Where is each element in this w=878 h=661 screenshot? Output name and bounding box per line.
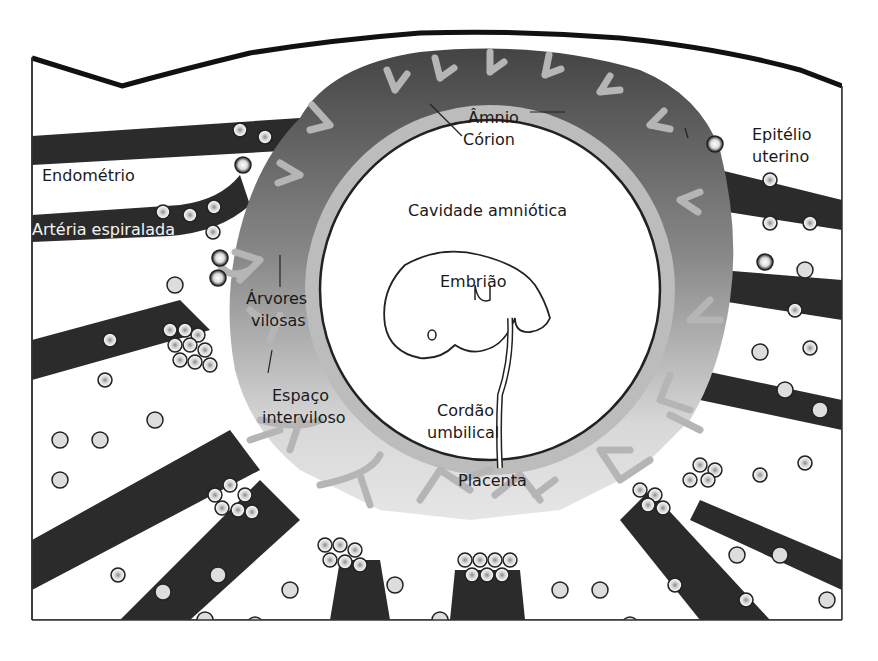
label-cavidade-amniotica: Cavidade amniótica	[408, 201, 567, 220]
label-espaco-1: Espaço	[272, 386, 329, 405]
label-endometrio: Endométrio	[42, 166, 135, 185]
label-cordao-1: Cordão	[437, 401, 494, 420]
label-placenta: Placenta	[458, 471, 527, 490]
label-amnio: Âmnio	[468, 108, 519, 127]
label-epitelio-1: Epitélio	[752, 125, 812, 144]
label-cordao-2: umbilical	[427, 423, 499, 442]
diagram-canvas: Âmnio Córion Epitélio uterino Endométrio…	[0, 0, 878, 661]
label-arvores-1: Árvores	[246, 289, 307, 308]
label-epitelio-2: uterino	[752, 147, 809, 166]
label-espaco-2: interviloso	[262, 408, 346, 427]
placenta-diagram: Âmnio Córion Epitélio uterino Endométrio…	[0, 0, 878, 661]
label-corion: Córion	[463, 130, 515, 149]
label-embriao: Embrião	[440, 272, 506, 291]
label-arteria-espiralada: Artéria espiralada	[32, 220, 175, 239]
label-arvores-2: vilosas	[251, 311, 306, 330]
